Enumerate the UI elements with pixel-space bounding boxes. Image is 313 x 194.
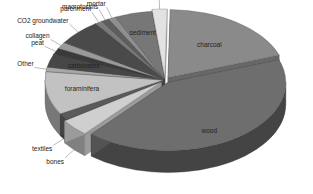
leader-line	[65, 150, 74, 158]
leader-line	[51, 39, 61, 45]
label-wood: wood	[200, 127, 217, 134]
leader-line	[69, 24, 78, 32]
pie-chart-canvas: charcoalwoodbonestextilesforaminiferaOth…	[0, 0, 313, 194]
leader-line	[159, 0, 160, 9]
label-collagen: collagen	[25, 32, 50, 40]
pie-chart: charcoalwoodbonestextilesforaminiferaOth…	[0, 0, 313, 194]
leader-line	[92, 12, 99, 22]
label-mortar: mortar	[87, 0, 107, 7]
leader-line	[53, 139, 63, 145]
label-carbonates: carbonates	[68, 62, 101, 69]
label-bones: bones	[46, 158, 64, 165]
label-charcoal: charcoal	[197, 41, 222, 48]
label-foraminifera: foraminifera	[65, 85, 100, 92]
label-peat: peat	[31, 39, 44, 47]
label-co2-groundwater: CO2 groundwater	[17, 17, 69, 25]
label-other: Other	[17, 60, 34, 67]
leader-line	[99, 10, 105, 20]
label-textiles: textiles	[32, 145, 53, 152]
leader-line	[107, 7, 112, 18]
leader-line	[45, 46, 56, 51]
label-sediment: sediment	[129, 29, 156, 36]
leader-line	[35, 67, 47, 69]
